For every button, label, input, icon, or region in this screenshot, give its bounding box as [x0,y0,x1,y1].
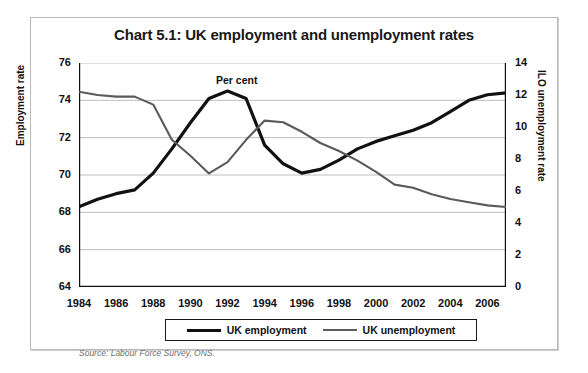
x-tick-label: 1990 [170,297,210,309]
legend-label-employment: UK employment [227,324,307,336]
x-tick-label: 1996 [282,297,322,309]
x-tick-label: 1986 [96,297,136,309]
y-right-tick-label: 2 [515,248,545,260]
x-tick-label: 2006 [467,297,507,309]
plot-svg [79,63,506,287]
percent-unit-label: Per cent [216,74,257,86]
legend-swatch-employment-icon [187,329,221,332]
y-right-tick-label: 14 [515,56,545,68]
legend-item-unemployment: UK unemployment [323,324,456,336]
legend-item-employment: UK employment [187,324,307,336]
x-tick-label: 1984 [59,297,99,309]
y-left-tick-label: 66 [41,243,71,255]
y-left-tick-label: 64 [41,280,71,292]
y-left-tick-label: 70 [41,168,71,180]
x-tick-label: 1998 [319,297,359,309]
y-right-tick-label: 8 [515,152,545,164]
chart-figure: Chart 5.1: UK employment and unemploymen… [30,17,558,350]
x-tick-label: 2002 [393,297,433,309]
y-right-tick-label: 12 [515,88,545,100]
x-tick-label: 1988 [133,297,173,309]
chart-title: Chart 5.1: UK employment and unemploymen… [31,26,557,43]
series-line-employment [79,91,506,207]
y-left-tick-label: 74 [41,93,71,105]
y-left-tick-label: 72 [41,131,71,143]
y-right-tick-label: 10 [515,120,545,132]
x-tick-label: 1992 [208,297,248,309]
series-line-unemployment [79,92,506,207]
y-right-tick-label: 6 [515,184,545,196]
chart-legend: UK employment UK unemployment [165,319,477,341]
y-axis-left-title: Employment rate [15,65,26,146]
legend-label-unemployment: UK unemployment [363,324,456,336]
plot-area [79,63,506,287]
y-right-tick-label: 4 [515,216,545,228]
x-tick-label: 2000 [356,297,396,309]
legend-swatch-unemployment-icon [323,329,357,331]
x-tick-label: 2004 [430,297,470,309]
x-tick-label: 1994 [245,297,285,309]
y-left-tick-label: 68 [41,205,71,217]
y-left-tick-label: 76 [41,56,71,68]
y-right-tick-label: 0 [515,280,545,292]
source-note: Source: Labour Force Survey, ONS. [79,348,215,358]
